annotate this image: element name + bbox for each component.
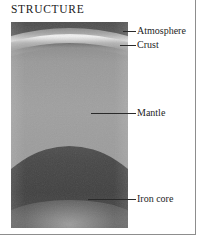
structure-figure: STRUCTURE Atmosphere Crust Mantle Iron c… [0, 0, 208, 245]
leader-line-mantle [91, 113, 136, 114]
label-atmosphere: Atmosphere [137, 25, 186, 36]
leader-line-iron-core [88, 199, 136, 200]
cutaway-illustration [11, 22, 128, 228]
figure-title: STRUCTURE [11, 3, 84, 15]
core-highlight [11, 200, 128, 228]
label-mantle: Mantle [137, 107, 165, 118]
label-crust: Crust [137, 39, 159, 50]
leader-line-crust [120, 45, 136, 46]
leader-line-atmosphere [123, 31, 136, 32]
label-iron-core: Iron core [137, 193, 173, 204]
